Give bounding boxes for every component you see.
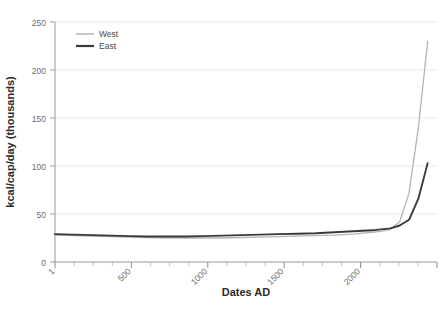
x-tick-label-500: 500 [116,266,133,283]
y-tick-label-0: 0 [41,258,46,268]
x-axis-tick-labels: 1 500 1000 1500 2000 [46,266,362,287]
y-tick-label-50: 50 [37,210,47,220]
y-tick-label-150: 150 [32,114,46,124]
legend-label-west: West [99,29,119,39]
y-tick-label-250: 250 [32,18,46,28]
plot-background [55,22,437,262]
legend-label-east: East [99,41,117,51]
y-axis-ticks [50,22,55,262]
x-tick-label-2000: 2000 [342,266,363,287]
x-tick-label-1000: 1000 [189,266,210,287]
x-axis-title: Dates AD [222,286,271,298]
y-tick-label-100: 100 [32,162,46,172]
x-axis-minor-ticks [74,262,418,266]
x-tick-label-1500: 1500 [265,266,286,287]
chart-container: 250 200 150 100 50 0 [0,0,447,313]
y-tick-label-200: 200 [32,66,46,76]
y-axis-title: kcal/cap/day (thousands) [4,76,16,208]
line-chart: 250 200 150 100 50 0 [0,0,447,313]
y-axis-tick-labels: 250 200 150 100 50 0 [32,18,46,268]
